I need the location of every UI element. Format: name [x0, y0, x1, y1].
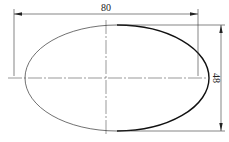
width-dimension-label: 80 [101, 2, 111, 13]
arrowhead-top [219, 25, 222, 33]
arrowhead-left [14, 12, 22, 15]
height-dimension-label: 48 [211, 73, 222, 83]
arrowhead-right [190, 12, 198, 15]
technical-drawing: 80 48 [0, 0, 229, 142]
arrowhead-bottom [219, 123, 222, 131]
